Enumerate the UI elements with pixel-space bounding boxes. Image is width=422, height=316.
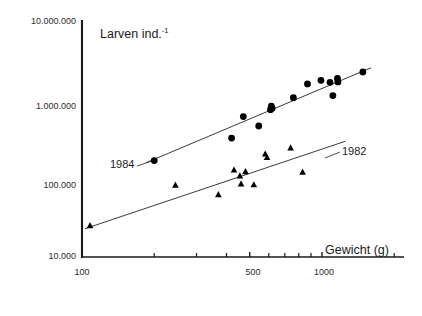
fit-line-1982: [85, 141, 345, 228]
data-point-1984: [255, 123, 262, 130]
data-point-1982: [215, 191, 222, 197]
data-point-1984: [335, 78, 342, 85]
axes: [82, 20, 404, 258]
data-point-1984: [304, 81, 311, 88]
y-tick-label-1000000: 1.000.000: [4, 101, 76, 111]
data-point-1982: [287, 144, 294, 150]
data-point-1982: [231, 166, 238, 172]
series-label-1982: 1982: [342, 145, 366, 157]
data-point-1982: [238, 180, 245, 186]
data-point-1982: [87, 222, 94, 228]
series-label-1984: 1984: [110, 158, 134, 170]
series-leader-1982: [325, 152, 340, 158]
x-tick-label-1000: 1000: [304, 267, 344, 277]
data-point-1982: [299, 169, 306, 175]
data-point-1984: [151, 157, 158, 164]
x-tick-label-100: 100: [64, 267, 100, 277]
y-axis-title-superscript: -1: [162, 26, 169, 35]
data-point-1982: [251, 181, 258, 187]
x-tick-label-500: 500: [235, 267, 271, 277]
data-point-1984: [290, 94, 297, 101]
data-point-1984: [318, 77, 325, 84]
data-point-1982: [172, 182, 179, 188]
data-point-1984: [269, 105, 276, 112]
data-point-1984: [228, 135, 235, 142]
data-point-1984: [240, 113, 247, 120]
y-axis-title-text: Larven ind.: [100, 27, 162, 41]
chart-container: 10.000.000 1.000.000 100.000 10.000 100 …: [0, 0, 422, 316]
data-point-1982: [242, 168, 249, 174]
data-point-1984: [327, 79, 334, 86]
regression-lines: [85, 68, 371, 229]
y-tick-label-10000000: 10.000.000: [4, 16, 76, 26]
y-tick-label-10000: 10.000: [4, 251, 76, 261]
x-axis-title: Gewicht (g): [325, 243, 389, 257]
y-axis-title: Larven ind.-1: [100, 26, 169, 41]
y-tick-label-100000: 100.000: [4, 180, 76, 190]
data-point-1982: [237, 172, 244, 178]
series-leader-1984: [137, 161, 152, 166]
data-point-1984: [359, 69, 366, 76]
data-point-1984: [329, 92, 336, 99]
